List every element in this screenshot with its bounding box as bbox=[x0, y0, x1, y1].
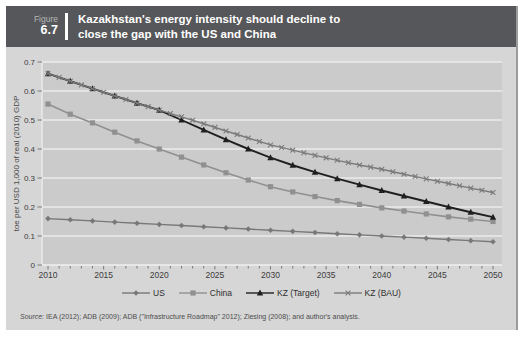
figure-title: Kazakhstan's energy intensity should dec… bbox=[68, 12, 340, 42]
us-diamond-marker-icon bbox=[121, 288, 151, 298]
svg-text:2025: 2025 bbox=[205, 270, 224, 280]
svg-text:2030: 2030 bbox=[261, 270, 280, 280]
figure-header: Figure 6.7 Kazakhstan's energy intensity… bbox=[6, 6, 516, 47]
svg-text:2015: 2015 bbox=[94, 270, 113, 280]
source-prefix: Source: bbox=[20, 313, 44, 320]
svg-text:toe per USD 1,000 of real (20: toe per USD 1,000 of real (2010) GDP bbox=[12, 96, 21, 232]
svg-text:0.1: 0.1 bbox=[24, 232, 36, 241]
source-text: IEA (2012); ADB (2009); ADB ("Infrastruc… bbox=[44, 313, 360, 320]
legend: US China KZ (Target) KZ (BAU) bbox=[6, 288, 516, 298]
legend-item-us: US bbox=[121, 288, 165, 298]
kz-bau-x-marker-icon bbox=[333, 288, 363, 298]
energy-intensity-chart: 00.10.20.30.40.50.60.7201020152020202520… bbox=[6, 47, 516, 290]
legend-item-kz-bau: KZ (BAU) bbox=[333, 288, 401, 298]
figure-title-line1: Kazakhstan's energy intensity should dec… bbox=[78, 13, 340, 25]
svg-text:2010: 2010 bbox=[39, 270, 58, 280]
svg-text:2050: 2050 bbox=[484, 270, 503, 280]
legend-label-kz-target: KZ (Target) bbox=[277, 288, 320, 298]
legend-label-china: China bbox=[210, 288, 232, 298]
svg-text:2040: 2040 bbox=[372, 270, 391, 280]
svg-text:0.7: 0.7 bbox=[24, 58, 36, 67]
svg-text:0.5: 0.5 bbox=[24, 116, 36, 125]
svg-text:2020: 2020 bbox=[150, 270, 169, 280]
figure-6-7: Figure 6.7 Kazakhstan's energy intensity… bbox=[6, 6, 518, 330]
svg-text:2045: 2045 bbox=[428, 270, 447, 280]
china-square-marker-icon bbox=[178, 288, 208, 298]
legend-item-china: China bbox=[178, 288, 232, 298]
legend-item-kz-target: KZ (Target) bbox=[245, 288, 320, 298]
svg-text:0.2: 0.2 bbox=[24, 203, 36, 212]
source-note: Source: IEA (2012); ADB (2009); ADB ("In… bbox=[20, 313, 360, 320]
svg-text:0.3: 0.3 bbox=[24, 174, 36, 183]
svg-text:0: 0 bbox=[31, 261, 36, 270]
figure-body: 00.10.20.30.40.50.60.7201020152020202520… bbox=[6, 47, 516, 330]
svg-text:0.6: 0.6 bbox=[24, 87, 36, 96]
figure-number: 6.7 bbox=[6, 24, 58, 37]
svg-text:2035: 2035 bbox=[317, 270, 336, 280]
legend-label-kz-bau: KZ (BAU) bbox=[365, 288, 401, 298]
figure-label-box: Figure 6.7 bbox=[6, 15, 65, 37]
kz-target-triangle-marker-icon bbox=[245, 288, 275, 298]
page: { "header": { "figure_label": "Figure", … bbox=[0, 0, 525, 339]
legend-label-us: US bbox=[153, 288, 165, 298]
svg-text:0.4: 0.4 bbox=[24, 145, 36, 154]
figure-title-line2: close the gap with the US and China bbox=[78, 28, 276, 40]
